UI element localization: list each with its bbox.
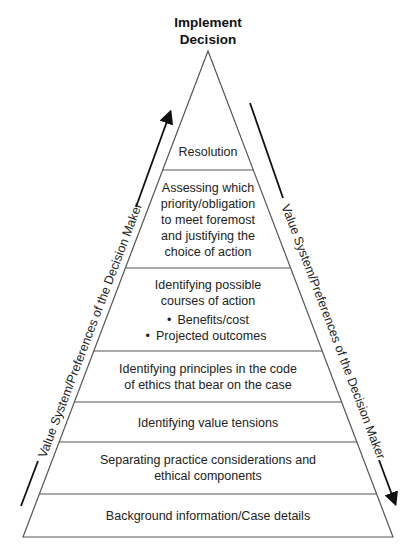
level-text: Identifying value tensions — [88, 415, 328, 431]
level-text: choice of action — [128, 244, 288, 260]
level-text: courses of action — [108, 293, 308, 309]
level-text: Resolution — [158, 144, 258, 160]
level-text: ethical components — [58, 468, 358, 484]
apex-label-line: Implement — [150, 14, 266, 31]
apex-label: Implement Decision — [150, 14, 266, 48]
level-possible-courses: Identifying possible courses of action B… — [108, 277, 308, 344]
bullet-item: Benefits/cost — [108, 312, 308, 328]
level-principles: Identifying principles in the code of et… — [88, 361, 328, 393]
level-background: Background information/Case details — [48, 508, 368, 524]
level-resolution: Resolution — [158, 144, 258, 160]
level-text: Assessing which — [128, 180, 288, 196]
level-assessing: Assessing which priority/obligation to m… — [128, 180, 288, 260]
level-text: to meet foremost — [128, 212, 288, 228]
level-separating: Separating practice considerations and e… — [58, 452, 358, 484]
level-text: and justifying the — [128, 228, 288, 244]
level-text: Identifying principles in the code — [88, 361, 328, 377]
level-value-tensions: Identifying value tensions — [88, 415, 328, 431]
level-text: Background information/Case details — [48, 508, 368, 524]
left-arrow-tail — [21, 461, 38, 506]
level-text: priority/obligation — [128, 196, 288, 212]
level-text: Identifying possible — [108, 277, 308, 293]
bullet-list: Benefits/cost Projected outcomes — [108, 312, 308, 344]
right-arrow-tail — [379, 460, 395, 503]
apex-label-line: Decision — [150, 31, 266, 48]
level-text: of ethics that bear on the case — [88, 377, 328, 393]
level-text: Separating practice considerations and — [58, 452, 358, 468]
bullet-item: Projected outcomes — [108, 328, 304, 344]
